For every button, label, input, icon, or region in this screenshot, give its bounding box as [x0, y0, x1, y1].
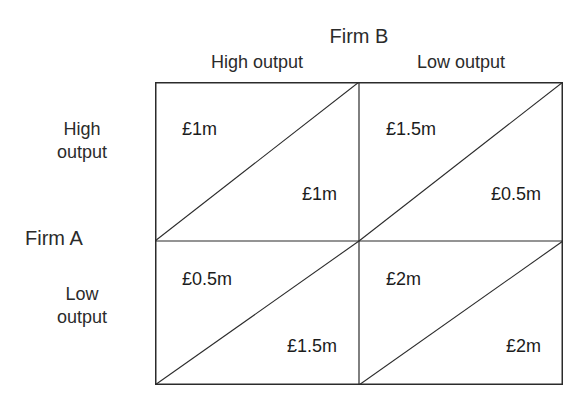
cell-low-high-col-payoff: £1.5m: [287, 335, 337, 357]
row-player-title: Firm A: [25, 226, 83, 250]
cell-low-low: £2m £2m: [359, 241, 563, 385]
payoff-matrix-diagram: Firm B High output Low output Firm A Hig…: [0, 0, 588, 419]
cell-high-low-col-payoff: £0.5m: [491, 183, 541, 205]
row-header-low-output: Low output: [17, 283, 147, 329]
cell-low-high-row-payoff: £0.5m: [182, 268, 232, 290]
column-player-title: Firm B: [155, 24, 563, 48]
row-header-low-output-line1: Low: [17, 283, 147, 306]
cell-high-low-row-payoff: £1.5m: [386, 118, 436, 140]
row-header-high-output-line2: output: [17, 141, 147, 164]
cell-high-high-col-payoff: £1m: [302, 183, 337, 205]
cell-high-low: £1.5m £0.5m: [359, 82, 563, 241]
cell-high-high-row-payoff: £1m: [182, 118, 217, 140]
column-header-high-output: High output: [155, 51, 359, 73]
row-header-low-output-line2: output: [17, 306, 147, 329]
row-header-high-output: High output: [17, 118, 147, 164]
row-header-high-output-line1: High: [17, 118, 147, 141]
cell-low-low-col-payoff: £2m: [506, 335, 541, 357]
cell-high-high: £1m £1m: [155, 82, 359, 241]
matrix-grid: £1m £1m £1.5m £0.5m £0.5m £1.5m £2m £2m: [155, 82, 563, 385]
cell-low-low-row-payoff: £2m: [386, 268, 421, 290]
column-header-low-output: Low output: [359, 51, 563, 73]
cell-low-high: £0.5m £1.5m: [155, 241, 359, 385]
